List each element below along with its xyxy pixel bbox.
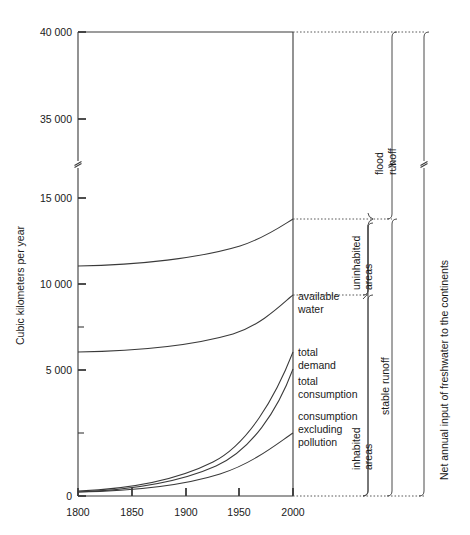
- y-tick-label-5000: 5 000: [46, 364, 72, 376]
- curve-stable-runoff-upper: [78, 219, 293, 266]
- y-axis-title: Cubic kilometers per year: [14, 225, 26, 345]
- x-tick-label-1850: 1850: [120, 506, 144, 518]
- label-total-consumption-line2: consumption: [298, 388, 358, 400]
- y-tick-label-15000: 15 000: [40, 192, 72, 204]
- label-available-water-line2: water: [297, 303, 324, 315]
- label-inhabited-areas-line2: areas: [362, 444, 374, 470]
- label-stable-runoff: stable runoff: [379, 357, 391, 415]
- curve-total-demand: [78, 352, 293, 491]
- y-tick-label-0: 0: [66, 490, 72, 502]
- label-total-demand-line1: total: [298, 346, 318, 358]
- x-tick-label-1800: 1800: [66, 506, 90, 518]
- label-uninhabited-areas-line2: areas: [362, 264, 374, 290]
- chart-root: 40 000 35 000 15 000 10 000 5 000 0 1800…: [0, 0, 470, 535]
- chart-svg: 40 000 35 000 15 000 10 000 5 000 0 1800…: [0, 0, 470, 535]
- y-tick-label-35000: 35 000: [40, 113, 72, 125]
- label-consumption-excluding-line1: consumption: [298, 410, 358, 422]
- label-inhabited-areas-line1: inhabited: [350, 427, 362, 470]
- y-tick-label-40000: 40 000: [40, 26, 72, 38]
- label-available-water-line1: available: [298, 290, 340, 302]
- y-ticks: [78, 32, 86, 496]
- label-flood-runoff-line2: runoff: [386, 148, 398, 175]
- label-consumption-excluding-line3: pollution: [298, 436, 337, 448]
- y-axis-break-icon: [75, 161, 82, 168]
- bracket-flood-runoff: [387, 32, 397, 219]
- y-tick-label-10000: 10 000: [40, 278, 72, 290]
- label-total-consumption-line1: total: [298, 375, 318, 387]
- label-total-demand-line2: demand: [298, 359, 336, 371]
- curve-consumption-excluding-pollution: [78, 433, 293, 492]
- label-uninhabited-areas-line1: uninhabited: [350, 236, 362, 290]
- label-flood-runoff-line1: flood: [373, 152, 385, 175]
- x-tick-label-1950: 1950: [227, 506, 251, 518]
- x-tick-label-1900: 1900: [174, 506, 198, 518]
- x-tick-label-2000: 2000: [281, 506, 305, 518]
- curve-available-water: [78, 295, 293, 352]
- outer-bracket-title: Net annual input of freshwater to the co…: [438, 260, 450, 480]
- bracket-net-annual-input: [419, 32, 429, 496]
- label-consumption-excluding-line2: excluding: [298, 423, 343, 435]
